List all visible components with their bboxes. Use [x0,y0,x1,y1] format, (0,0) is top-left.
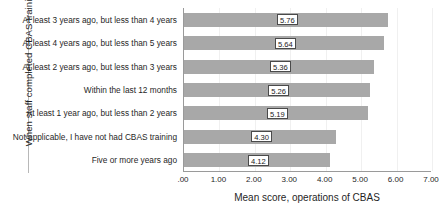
category-label: At least 2 years ago, but less than 3 ye… [22,60,177,74]
category-label: Within the last 12 months [84,83,177,97]
category-label: At least 1 year ago, but less than 2 yea… [27,106,177,120]
gridline [397,8,398,171]
x-tick-label: 1.00 [211,175,227,184]
x-tick-label: 6.00 [388,175,404,184]
x-tick-label: .00 [177,175,188,184]
x-axis-tick-labels: .001.002.003.004.005.006.007.00 [183,175,431,187]
gridline [432,8,433,171]
x-tick-label: 7.00 [423,175,439,184]
category-label: At least 4 years ago, but less than 5 ye… [22,36,177,50]
x-tick-label: 2.00 [246,175,262,184]
bar-value-label: 5.19 [267,108,288,119]
bar-value-label: 5.76 [277,14,298,25]
bar-value-label: 5.64 [275,38,296,49]
category-label: Five or more years ago [92,153,177,167]
bar-value-label: 5.26 [268,85,289,96]
bar-value-label: 4.30 [251,131,272,142]
x-axis-title: Mean score, operations of CBAS [183,192,431,203]
bar-value-label: 4.12 [248,155,269,166]
category-label-list: At least 3 years ago, but less than 4 ye… [32,8,180,172]
x-tick-label: 4.00 [317,175,333,184]
category-label: Not applicable, I have not had CBAS trai… [13,130,177,144]
plot-area: 5.765.645.365.265.194.304.12 [183,8,431,172]
category-label: At least 3 years ago, but less than 4 ye… [22,13,177,27]
bar-value-label: 5.36 [270,61,291,72]
x-tick-label: 3.00 [281,175,297,184]
x-tick-label: 5.00 [352,175,368,184]
